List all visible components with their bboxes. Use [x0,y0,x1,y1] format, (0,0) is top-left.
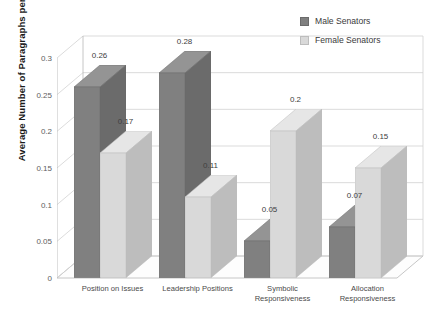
y-axis-tick-label: 0 [18,274,52,283]
y-axis-tick-labels: 00.050.10.150.20.250.3 [16,0,52,319]
x-axis-category-label: Allocation Responsiveness [340,284,396,304]
legend-label: Female Senators [315,35,380,45]
x-axis-category-label: Symbolic Responsiveness [255,284,311,304]
bar-value-label: 0.11 [203,161,218,170]
legend-swatch-icon [300,17,309,26]
x-axis-category-label: Leadership Positions [162,284,233,294]
y-axis-tick-label: 0.2 [18,127,52,136]
plot-area: 0.260.170.280.110.050.20.070.15 Position… [57,30,429,292]
bar-female [270,109,322,278]
legend-item: Female Senators [300,35,380,45]
y-axis-tick-label: 0.3 [18,54,52,63]
bar-value-label: 0.07 [347,191,363,200]
legend-item: Male Senators [300,16,380,26]
y-axis-tick-label: 0.15 [18,164,52,173]
bar-value-label: 0.26 [92,51,108,60]
y-axis-tick-label: 0.05 [18,237,52,246]
bar-value-label: 0.15 [373,132,389,141]
legend-swatch-icon [300,36,309,45]
legend-label: Male Senators [315,16,370,26]
bar-value-label: 0.28 [177,37,193,46]
bar-female [185,175,237,278]
bar-chart: Average Number of Paragraphs per Article… [0,0,442,319]
bar-value-label: 0.05 [262,205,278,214]
legend: Male SenatorsFemale Senators [300,16,380,54]
x-axis-category-label: Position on Issues [82,284,144,294]
y-axis-tick-label: 0.25 [18,90,52,99]
bar-female [100,131,152,278]
y-axis-tick-label: 0.1 [18,200,52,209]
bar-value-label: 0.17 [118,117,134,126]
bar-value-label: 0.2 [290,95,301,104]
bar-female [355,146,407,278]
